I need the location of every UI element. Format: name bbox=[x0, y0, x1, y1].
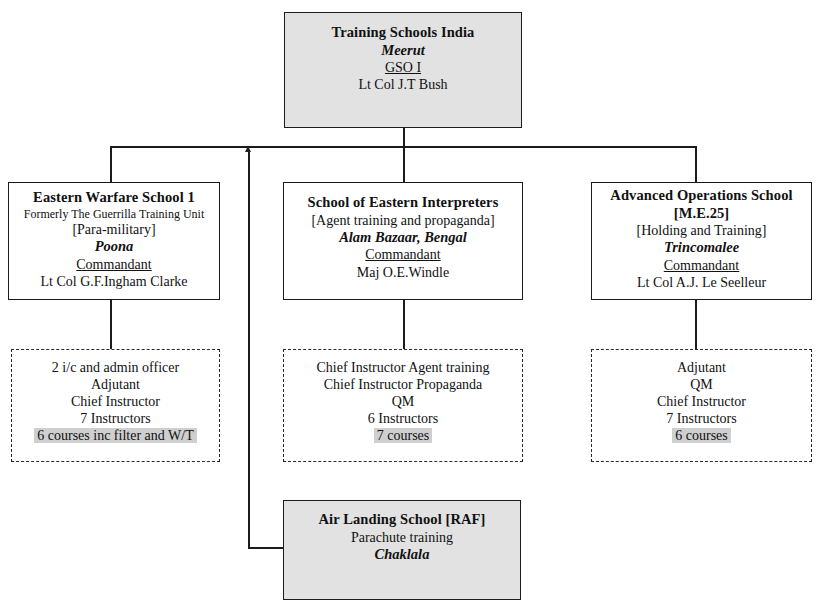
node-line-location: Poona bbox=[9, 238, 219, 256]
node-line-role: GSO I bbox=[285, 59, 521, 76]
node-line-courses: 6 courses inc filter and W/T bbox=[12, 427, 219, 444]
node-line-staff-3: Chief Instructor bbox=[592, 393, 811, 410]
connector-air-landing-vertical bbox=[248, 152, 250, 548]
node-line-staff-2: QM bbox=[592, 376, 811, 393]
node-line-category: [Para-military] bbox=[9, 221, 219, 238]
connector-root-stem bbox=[403, 128, 405, 147]
node-line-staff-2: Adjutant bbox=[12, 376, 219, 393]
node-line-location: Trincomalee bbox=[592, 239, 811, 257]
node-line-title: Air Landing School [RAF] bbox=[284, 511, 520, 529]
connector-drop-middle bbox=[403, 146, 405, 183]
node-line-category: [Holding and Training] bbox=[592, 222, 811, 239]
node-line-staff-1: 2 i/c and admin officer bbox=[12, 359, 219, 376]
node-line-staff-4: 6 Instructors bbox=[284, 410, 522, 427]
node-advanced-operations-school[interactable]: Advanced Operations School [M.E.25] [Hol… bbox=[591, 182, 812, 300]
org-chart-canvas: Training Schools India Meerut GSO I Lt C… bbox=[0, 0, 824, 614]
node-eastern-warfare-school-1[interactable]: Eastern Warfare School 1 Formerly The Gu… bbox=[8, 182, 220, 300]
node-line-staff-3: QM bbox=[284, 393, 522, 410]
node-eastern-warfare-school-staff[interactable]: 2 i/c and admin officer Adjutant Chief I… bbox=[11, 349, 220, 462]
node-line-person: Lt Col G.F.Ingham Clarke bbox=[9, 273, 219, 290]
node-line-role: Commandant bbox=[9, 256, 219, 273]
node-line-title: Eastern Warfare School 1 bbox=[9, 189, 219, 207]
node-line-function: Parachute training bbox=[284, 529, 520, 546]
node-line-location: Alam Bazaar, Bengal bbox=[284, 229, 522, 247]
node-line-role: Commandant bbox=[284, 246, 522, 263]
node-line-staff-1: Adjutant bbox=[592, 359, 811, 376]
node-line-location: Meerut bbox=[285, 42, 521, 60]
node-line-courses: 6 courses bbox=[592, 427, 811, 444]
node-line-staff-1: Chief Instructor Agent training bbox=[284, 359, 522, 376]
connector-drop-right bbox=[695, 146, 697, 183]
connector-right-staff bbox=[695, 300, 697, 349]
node-training-schools-india[interactable]: Training Schools India Meerut GSO I Lt C… bbox=[284, 12, 522, 128]
node-line-staff-4: 7 Instructors bbox=[12, 410, 219, 427]
node-line-title: Advanced Operations School bbox=[592, 187, 811, 205]
node-air-landing-school-raf[interactable]: Air Landing School [RAF] Parachute train… bbox=[283, 500, 521, 600]
node-line-code: [M.E.25] bbox=[592, 205, 811, 223]
node-line-person: Lt Col J.T Bush bbox=[285, 76, 521, 93]
node-line-role: Commandant bbox=[592, 257, 811, 274]
node-line-title: Training Schools India bbox=[285, 24, 521, 42]
node-school-of-eastern-interpreters[interactable]: School of Eastern Interpreters [Agent tr… bbox=[283, 182, 523, 300]
node-line-staff-4: 7 Instructors bbox=[592, 410, 811, 427]
node-line-person: Lt Col A.J. Le Seelleur bbox=[592, 274, 811, 291]
node-school-of-eastern-interpreters-staff[interactable]: Chief Instructor Agent training Chief In… bbox=[283, 349, 523, 462]
node-line-location: Chaklala bbox=[284, 546, 520, 564]
connector-drop-left bbox=[110, 146, 112, 183]
node-line-title: School of Eastern Interpreters bbox=[284, 194, 522, 212]
node-line-subtitle: Formerly The Guerrilla Training Unit bbox=[9, 207, 219, 222]
node-line-staff-2: Chief Instructor Propaganda bbox=[284, 376, 522, 393]
node-line-person: Maj O.E.Windle bbox=[284, 264, 522, 281]
arrowhead-up-icon bbox=[245, 146, 251, 152]
node-line-staff-3: Chief Instructor bbox=[12, 393, 219, 410]
connector-left-staff bbox=[110, 300, 112, 349]
connector-air-landing-horizontal bbox=[248, 547, 283, 549]
connector-middle-staff bbox=[403, 300, 405, 349]
node-advanced-operations-school-staff[interactable]: Adjutant QM Chief Instructor 7 Instructo… bbox=[591, 349, 812, 462]
node-line-category: [Agent training and propaganda] bbox=[284, 212, 522, 229]
node-line-courses: 7 courses bbox=[284, 427, 522, 444]
